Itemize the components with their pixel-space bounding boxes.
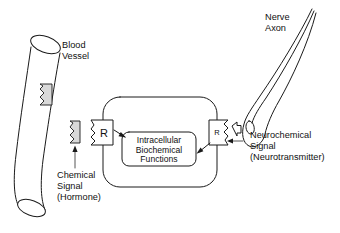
receptor-left-label: R — [100, 127, 108, 139]
neurochemical-signal-line-3: (Neurotransmitter) — [250, 152, 325, 162]
label-blood-vessel: Blood Vessel — [62, 40, 89, 61]
label-neurochemical-signal: Neurochemical Signal (Neurotransmitter) — [250, 130, 325, 162]
chemical-signal-line-1: Chemical — [57, 170, 95, 180]
blood-vessel-tube — [14, 32, 63, 220]
chemical-signal-line-3: (Hormone) — [57, 192, 101, 202]
receptor-neurotransmitter: R — [209, 120, 228, 145]
chemical-signal-line-2: Signal — [57, 181, 83, 191]
signaling-diagram: Intracellular Biochemical Functions R R — [0, 0, 340, 233]
nerve-axon-line-2: Axon — [265, 23, 286, 33]
blood-vessel-line-1: Blood — [62, 40, 86, 50]
intracellular-functions-box: Intracellular Biochemical Functions — [122, 132, 196, 166]
neurochemical-signal-line-1: Neurochemical — [250, 130, 311, 140]
label-chemical-signal: Chemical Signal (Hormone) — [57, 170, 101, 202]
nerve-axon-line-1: Nerve — [265, 12, 290, 22]
label-nerve-axon: Nerve Axon — [265, 12, 290, 33]
neurotransmitter-molecule — [232, 122, 241, 136]
hormone-molecule-free — [70, 121, 80, 143]
neurochemical-signal-line-2: Signal — [250, 141, 276, 151]
receptor-hormone: R — [91, 120, 113, 145]
arrow-hormone-label — [72, 146, 77, 169]
hormone-molecule-in-vessel — [40, 84, 52, 105]
receptor-right-label: R — [214, 128, 220, 137]
intracellular-line-2: Biochemical — [136, 145, 182, 155]
intracellular-line-1: Intracellular — [137, 135, 182, 145]
intracellular-line-3: Functions — [140, 154, 177, 164]
diagram-canvas: Intracellular Biochemical Functions R R — [0, 0, 340, 233]
blood-vessel-line-2: Vessel — [62, 51, 89, 61]
arrow-receptor-right-to-functions — [197, 143, 211, 154]
arrow-neurotransmitter-binding — [227, 139, 243, 144]
